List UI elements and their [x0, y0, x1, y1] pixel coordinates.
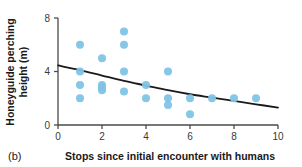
- scatter-point: [120, 88, 128, 96]
- y-axis-tick-label: 4: [44, 66, 50, 77]
- scatter-point: [164, 101, 172, 109]
- y-axis-tick-label: 0: [44, 120, 50, 131]
- figure-panel-b: 048 0246810 Honeyguide perching height (…: [0, 0, 302, 167]
- scatter-point: [142, 94, 150, 102]
- scatter-point: [208, 94, 216, 102]
- scatter-point: [230, 94, 238, 102]
- x-axis-tick-label: 2: [99, 131, 105, 142]
- scatter-point: [142, 81, 150, 89]
- x-axis-tick-label: 0: [55, 131, 61, 142]
- x-axis-tick-label: 4: [143, 131, 149, 142]
- plot-background: [0, 0, 302, 167]
- scatter-point: [252, 94, 260, 102]
- scatter-point: [120, 68, 128, 76]
- scatter-point: [120, 27, 128, 35]
- x-axis-tick-label: 8: [231, 131, 237, 142]
- scatter-point: [164, 68, 172, 76]
- scatter-point: [76, 68, 84, 76]
- x-axis-title: Stops since initial encounter with human…: [65, 150, 275, 162]
- scatter-point: [76, 41, 84, 49]
- scatter-point: [76, 94, 84, 102]
- x-axis-tick-label: 10: [272, 131, 284, 142]
- scatter-plot: 048 0246810 Honeyguide perching height (…: [0, 0, 302, 167]
- scatter-point: [186, 94, 194, 102]
- panel-label: (b): [8, 150, 21, 162]
- scatter-point: [98, 86, 106, 94]
- y-axis-tick-label: 8: [44, 13, 50, 24]
- y-axis-title-line-1: Honeyguide perching: [4, 18, 16, 125]
- scatter-point: [98, 54, 106, 62]
- scatter-point: [76, 81, 84, 89]
- scatter-point: [186, 110, 194, 118]
- x-axis-tick-label: 6: [187, 131, 193, 142]
- scatter-point: [120, 41, 128, 49]
- y-axis-title-line-2: height (m): [17, 47, 29, 98]
